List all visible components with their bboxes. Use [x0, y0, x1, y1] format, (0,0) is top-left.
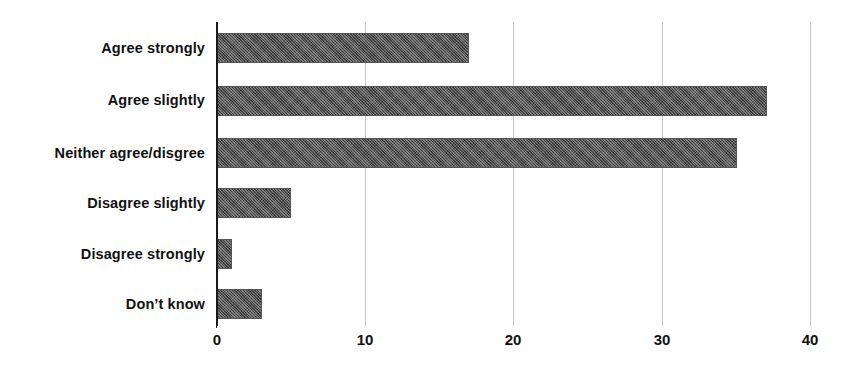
x-tick-label-10: 10 [335, 331, 395, 348]
bar-disagree-strongly [217, 239, 232, 269]
x-tick-label-20: 20 [483, 331, 543, 348]
category-label-1: Agree slightly [0, 92, 205, 108]
y-axis-line [216, 22, 218, 326]
category-label-4: Disagree strongly [0, 246, 205, 262]
category-label-0: Agree strongly [0, 40, 205, 56]
category-label-2: Neither agree/disgree [0, 145, 205, 161]
category-label-5: Don’t know [0, 296, 205, 312]
gridline-30 [662, 22, 663, 326]
bar-chart: Agree strongly Agree slightly Neither ag… [0, 0, 856, 367]
bar-agree-slightly [217, 86, 767, 116]
bar-agree-strongly [217, 33, 469, 63]
bar-disagree-slightly [217, 188, 291, 218]
x-tick-label-0: 0 [187, 331, 247, 348]
x-tick-label-30: 30 [632, 331, 692, 348]
gridline-10 [365, 22, 366, 326]
bar-dont-know [217, 289, 262, 319]
gridline-20 [513, 22, 514, 326]
tick-mark-0 [216, 320, 217, 328]
gridline-40 [810, 22, 811, 326]
x-tick-label-40: 40 [780, 331, 840, 348]
bar-neither-agree-disagree [217, 138, 737, 168]
category-label-3: Disagree slightly [0, 195, 205, 211]
